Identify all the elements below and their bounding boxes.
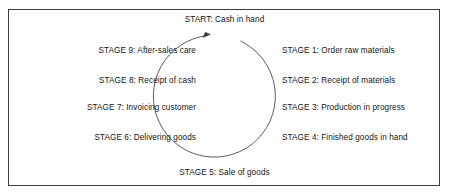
stage-9-label: STAGE 9: After-sales care	[0, 46, 196, 56]
stage-6-label: STAGE 6: Delivering goods	[0, 133, 196, 143]
stage-8-label: STAGE 8: Receipt of cash	[0, 76, 196, 86]
start-label: START: Cash in hand	[0, 15, 449, 25]
cycle-arrowhead-icon	[203, 32, 211, 37]
stage-5-label: STAGE 5: Sale of goods	[0, 168, 449, 178]
stage-1-label: STAGE 1: Order raw materials	[282, 46, 447, 56]
stage-4-label: STAGE 4: Finished goods in hand	[282, 133, 447, 143]
operating-cycle-diagram	[0, 0, 449, 195]
stage-7-label: STAGE 7: Invoicing customer	[0, 103, 196, 113]
stage-2-label: STAGE 2: Receipt of materials	[282, 76, 447, 86]
diagram-canvas: START: Cash in hand STAGE 9: After-sales…	[0, 0, 449, 195]
stage-3-label: STAGE 3: Production in progress	[282, 103, 447, 113]
